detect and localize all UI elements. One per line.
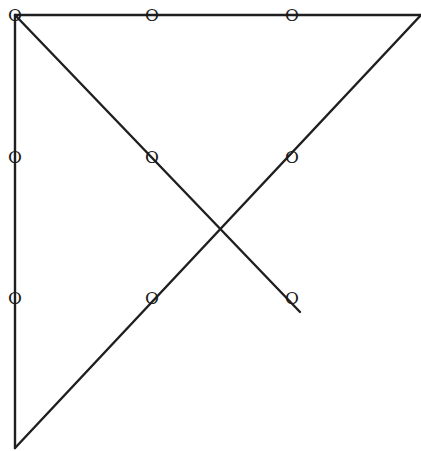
diagram-svg: OOOOOOOOO [0,0,421,451]
node-r3c1: O [8,288,22,308]
node-r2c3: O [285,147,299,167]
node-r2c1: O [8,147,22,167]
nodes-layer: OOOOOOOOO [8,5,299,308]
node-r3c3: O [285,288,299,308]
node-r1c2: O [145,5,159,25]
lines-layer [15,15,421,448]
node-r1c3: O [285,5,299,25]
node-r3c2: O [145,288,159,308]
node-r1c1: O [8,5,22,25]
nine-dot-diagram: OOOOOOOOO [0,0,421,451]
node-r2c2: O [145,147,159,167]
